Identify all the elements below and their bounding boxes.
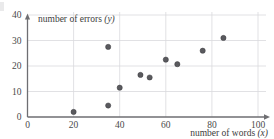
y-axis-label: number of errors (y): [38, 14, 115, 25]
data-point-series: [71, 35, 226, 114]
axes-group: [25, 14, 270, 120]
horizontal-gridlines: [28, 15, 267, 92]
x-tick-label-20: 20: [69, 120, 79, 130]
data-point: [106, 44, 111, 49]
y-tick-label-20: 20: [12, 61, 22, 71]
x-tick-label-60: 60: [161, 120, 171, 130]
data-point: [138, 72, 143, 77]
x-axis-arrowhead: [264, 114, 270, 120]
y-tick-label-10: 10: [12, 87, 22, 97]
data-point: [175, 62, 180, 67]
y-tick-label-40: 40: [12, 10, 22, 20]
x-tick-label-40: 40: [115, 120, 125, 130]
y-axis-arrowhead: [25, 14, 30, 20]
y-axis-tick-labels: 010203040: [12, 10, 22, 122]
x-tick-label-0: 0: [25, 120, 30, 130]
y-tick-label-0: 0: [17, 112, 22, 122]
data-point: [163, 57, 168, 62]
y-tick-label-30: 30: [12, 36, 22, 46]
vertical-gridlines: [74, 12, 258, 117]
data-point: [71, 109, 76, 114]
data-point: [200, 48, 205, 53]
x-axis-label: number of words (x): [190, 128, 268, 139]
scatter-plot-figure: 010203040 020406080100 number of errors …: [0, 0, 274, 139]
data-point: [106, 103, 111, 108]
data-point: [117, 85, 122, 90]
data-point: [147, 75, 152, 80]
scatter-plot-canvas: 010203040 020406080100 number of errors …: [0, 0, 274, 139]
data-point: [221, 35, 226, 40]
